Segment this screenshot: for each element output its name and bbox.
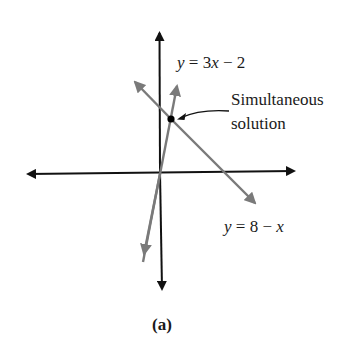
y-axis-down — [160, 172, 162, 289]
annotation-arrow — [180, 111, 229, 118]
y-axis — [160, 33, 161, 172]
annotation-line-2: solution — [231, 114, 286, 133]
x-axis — [28, 173, 160, 175]
simultaneous-equations-diagram: y = 3x − 2 Simultaneous solution y = 8 −… — [0, 0, 363, 351]
intersection-point — [167, 115, 174, 122]
equation-label-1: y = 3x − 2 — [175, 53, 245, 72]
annotation-line-1: Simultaneous — [231, 90, 324, 109]
line-y-3x-minus-2-tail — [144, 174, 160, 254]
x-axis-right — [160, 171, 294, 173]
figure-caption: (a) — [152, 315, 172, 334]
line-y-8-minus-x — [135, 82, 171, 119]
equation-label-2: y = 8 − x — [222, 217, 284, 236]
annotation-arrowhead — [177, 113, 186, 120]
